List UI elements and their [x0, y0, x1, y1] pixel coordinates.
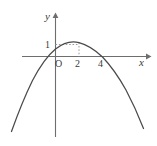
- y-axis-label: y: [45, 11, 50, 22]
- parabola-curve: [12, 42, 144, 132]
- y-axis: [53, 13, 59, 138]
- y-tick-label-1: 1: [45, 40, 50, 50]
- x-axis: [22, 54, 152, 60]
- origin-label: O: [55, 59, 62, 69]
- x-axis-label: x: [139, 57, 144, 68]
- parabola-figure: y x O 1 2 4: [0, 0, 157, 146]
- x-tick-label-4: 4: [98, 59, 103, 69]
- x-tick-label-2: 2: [75, 59, 80, 69]
- plot-canvas: [0, 0, 157, 146]
